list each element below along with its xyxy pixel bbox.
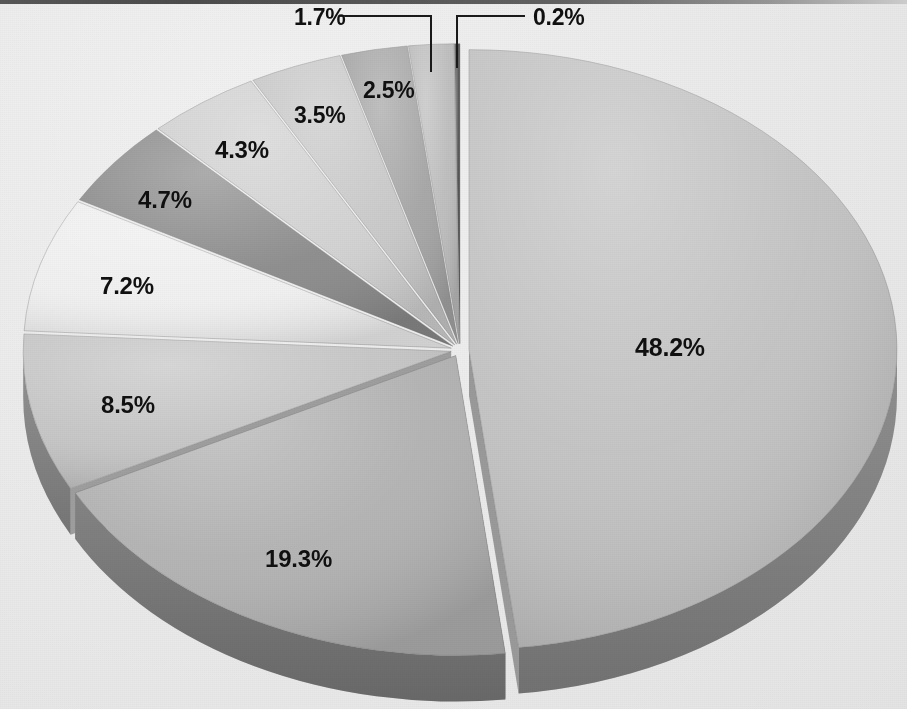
slice-label-8-5: 8.5% [101,391,155,419]
slice-label-19-3: 19.3% [265,545,332,573]
pie-top-faces [23,44,897,656]
slice-label-7-2: 7.2% [100,272,154,300]
slice-label-1-7: 1.7% [294,4,346,31]
slice-label-0-2: 0.2% [533,4,585,31]
slice-label-3-5: 3.5% [294,102,346,129]
pie-chart-graphic [0,0,907,709]
chart-canvas: 48.2% 19.3% 8.5% 7.2% 4.7% 4.3% 3.5% 2.5… [0,0,907,709]
slice-label-48-2: 48.2% [635,333,705,362]
scan-top-edge [0,0,907,4]
slice-label-4-7: 4.7% [138,186,192,214]
slice-label-4-3: 4.3% [215,136,269,164]
slice-label-2-5: 2.5% [363,77,415,104]
